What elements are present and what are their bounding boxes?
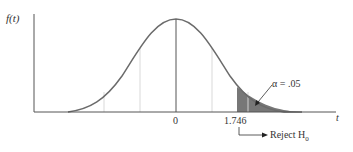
reject-arrow-icon	[262, 133, 268, 138]
y-axis-label: f(t)	[6, 12, 20, 25]
tick-zero: 0	[173, 115, 178, 126]
t-distribution-chart: f(t) t 0 1.746 α = .05 Reject H0	[0, 0, 353, 152]
tick-critical: 1.746	[224, 115, 247, 126]
density-curve	[68, 19, 302, 112]
alpha-label: α = .05	[272, 78, 300, 89]
x-axis-label: t	[336, 112, 339, 123]
reject-leader	[239, 127, 263, 135]
reject-label: Reject H0	[270, 129, 309, 143]
alpha-leader	[258, 85, 272, 102]
